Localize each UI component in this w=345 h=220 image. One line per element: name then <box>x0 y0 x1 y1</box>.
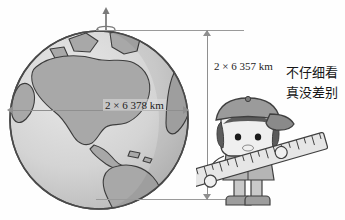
arrow-right-icon <box>183 106 189 114</box>
boy-character-icon <box>196 96 328 214</box>
figure-canvas: 2 × 6 357 km 2 × 6 378 km 不仔细看 真没差别 <box>0 0 345 220</box>
arrow-up-icon <box>203 30 211 36</box>
equatorial-diameter-label: 2 × 6 378 km <box>103 99 166 111</box>
arrow-left-icon <box>7 106 13 114</box>
polar-diameter-label: 2 × 6 357 km <box>214 60 273 72</box>
cut-off-text-sliver <box>0 0 345 4</box>
extension-line-top <box>96 30 244 31</box>
caption-line-1: 不仔细看 <box>286 63 338 83</box>
globe-icon <box>6 27 192 213</box>
